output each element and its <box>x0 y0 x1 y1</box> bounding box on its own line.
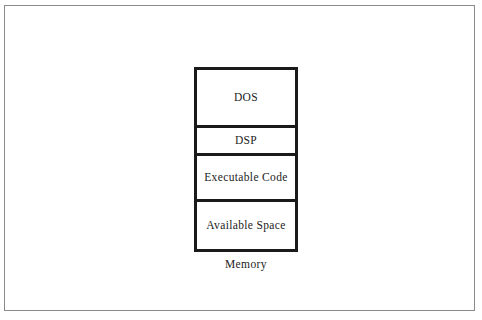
page-root: DOS DSP Executable Code Available Space … <box>0 0 482 320</box>
memory-segment-dsp: DSP <box>197 128 295 156</box>
memory-diagram: DOS DSP Executable Code Available Space … <box>194 67 298 271</box>
memory-segment-available-space: Available Space <box>197 202 295 249</box>
memory-segment-dsp-label: DSP <box>235 135 257 147</box>
memory-segment-executable-code-label: Executable Code <box>204 172 287 184</box>
memory-segment-dos-label: DOS <box>234 92 258 104</box>
figure-frame: DOS DSP Executable Code Available Space … <box>4 5 475 311</box>
memory-diagram-caption: Memory <box>194 259 298 271</box>
memory-segment-available-space-label: Available Space <box>206 220 285 232</box>
memory-segment-dos: DOS <box>197 70 295 128</box>
memory-box: DOS DSP Executable Code Available Space <box>194 67 298 252</box>
memory-segment-executable-code: Executable Code <box>197 156 295 202</box>
